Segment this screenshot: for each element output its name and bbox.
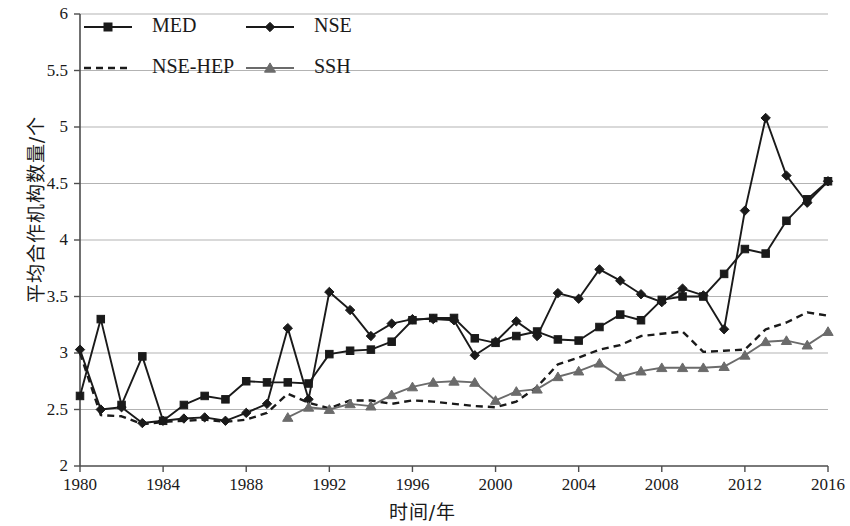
data-point-marker xyxy=(388,338,396,346)
data-point-marker xyxy=(222,396,230,404)
data-series-layer xyxy=(75,113,833,427)
data-point-marker xyxy=(346,347,354,355)
x-tick-label: 1988 xyxy=(216,475,276,495)
data-point-marker xyxy=(554,336,562,344)
y-tick-label: 3 xyxy=(26,343,68,363)
data-point-marker xyxy=(242,378,250,386)
data-point-marker xyxy=(741,245,749,253)
legend-swatch-med xyxy=(84,23,132,31)
data-point-marker xyxy=(594,358,604,367)
data-point-marker xyxy=(284,379,292,387)
series-med xyxy=(76,177,832,424)
data-point-marker xyxy=(616,311,624,319)
data-point-marker xyxy=(596,323,604,331)
legend-label-nse-hep: NSE-HEP xyxy=(152,55,234,78)
data-point-marker xyxy=(201,392,209,400)
data-point-marker xyxy=(97,315,105,323)
x-axis-title: 时间/年 xyxy=(0,497,845,524)
x-tick-label: 1984 xyxy=(133,475,193,495)
data-point-marker xyxy=(326,350,334,358)
series-line xyxy=(80,312,828,424)
x-tick-label: 1996 xyxy=(382,475,442,495)
y-tick-label: 6 xyxy=(26,4,68,24)
series-nse-hep xyxy=(80,312,828,424)
y-axis-title: 平均合作机构数量/个 xyxy=(21,80,48,340)
data-point-marker xyxy=(637,316,645,324)
legend-label-med: MED xyxy=(152,14,196,37)
data-point-marker xyxy=(283,323,292,332)
data-point-marker xyxy=(139,353,147,361)
x-tick-label: 1992 xyxy=(299,475,359,495)
x-tick-label: 2008 xyxy=(632,475,692,495)
data-point-marker xyxy=(616,276,625,285)
data-point-marker xyxy=(740,206,749,215)
y-tick-label: 2 xyxy=(26,456,68,476)
data-point-marker xyxy=(636,290,645,299)
legend-label-nse: NSE xyxy=(314,14,352,37)
data-point-marker xyxy=(720,270,728,278)
data-point-marker xyxy=(783,217,791,225)
data-point-marker xyxy=(180,401,188,409)
y-tick-label: 5.5 xyxy=(26,61,68,81)
data-point-marker xyxy=(262,399,271,408)
x-tick-label: 2012 xyxy=(715,475,775,495)
x-tick-label: 2000 xyxy=(466,475,526,495)
x-tick-label: 1980 xyxy=(50,475,110,495)
data-point-marker xyxy=(263,379,271,387)
legend-label-ssh: SSH xyxy=(314,55,351,78)
data-point-marker xyxy=(823,327,833,336)
data-point-marker xyxy=(678,284,687,293)
data-point-marker xyxy=(761,113,770,122)
data-point-marker xyxy=(762,250,770,258)
data-point-marker xyxy=(719,325,728,334)
data-point-marker xyxy=(367,346,375,354)
legend-swatch-nse xyxy=(246,22,294,31)
data-point-marker xyxy=(470,351,479,360)
data-point-marker xyxy=(283,413,293,422)
legend-marker xyxy=(265,22,274,31)
data-point-marker xyxy=(513,332,521,340)
x-tick-label: 2004 xyxy=(549,475,609,495)
x-tick-label: 2016 xyxy=(798,475,850,495)
data-point-marker xyxy=(575,337,583,345)
legend-marker xyxy=(104,23,112,31)
data-point-marker xyxy=(387,319,396,328)
data-point-marker xyxy=(76,392,84,400)
y-tick-label: 2.5 xyxy=(26,400,68,420)
data-point-marker xyxy=(471,335,479,343)
